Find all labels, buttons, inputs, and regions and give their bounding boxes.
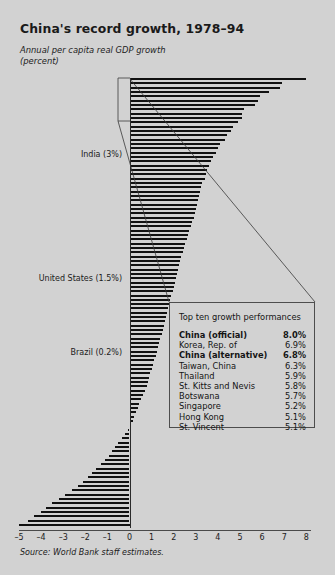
callout-row-name: China (official)	[179, 330, 247, 340]
reference-annotation: United States (1.5%)	[0, 274, 122, 283]
bar	[130, 204, 197, 206]
bar	[130, 295, 172, 297]
zero-axis-rule	[130, 78, 131, 528]
x-tick-label: –3	[55, 533, 71, 542]
bar	[130, 113, 243, 115]
bar	[130, 186, 202, 188]
bar	[130, 234, 189, 236]
bar	[130, 320, 165, 322]
bar	[88, 476, 130, 478]
bar	[65, 494, 129, 496]
bar	[130, 225, 192, 227]
bar	[130, 121, 238, 123]
bar	[101, 463, 130, 465]
bar	[130, 82, 282, 84]
bar	[130, 264, 180, 266]
callout-list: China (official)8.0%Korea, Rep. of6.9%Ch…	[179, 330, 306, 432]
bar	[130, 398, 141, 400]
x-tick-label: –4	[33, 533, 49, 542]
bar	[130, 78, 307, 80]
callout-row-value: 6.3%	[285, 361, 306, 371]
reference-annotation: Brazil (0.2%)	[0, 348, 122, 357]
callout-row-name: Botswana	[179, 391, 220, 401]
bar	[130, 342, 160, 344]
x-tick-label: –1	[99, 533, 115, 542]
callout-row: Hong Kong5.1%	[179, 412, 306, 422]
x-tick-label: 5	[232, 533, 248, 542]
bar	[130, 152, 216, 154]
callout-row-name: Hong Kong	[179, 412, 224, 422]
bar	[130, 217, 194, 219]
bar	[130, 243, 185, 245]
bar	[130, 351, 158, 353]
callout-heading: Top ten growth performances	[179, 312, 301, 322]
bar	[130, 269, 179, 271]
bar	[130, 230, 190, 232]
bar	[83, 481, 129, 483]
bar	[130, 173, 206, 175]
bar	[130, 212, 195, 214]
callout-row: Korea, Rep. of6.9%	[179, 340, 306, 350]
bar	[130, 290, 173, 292]
bar	[105, 459, 129, 461]
x-tick-label: 0	[122, 533, 138, 542]
bar	[130, 143, 221, 145]
bar	[130, 368, 152, 370]
bar	[130, 108, 245, 110]
bar	[130, 126, 234, 128]
callout-row-name: Korea, Rep. of	[179, 340, 237, 350]
callout-row: St. Vincent5.1%	[179, 422, 306, 432]
bar	[78, 485, 130, 487]
callout-row-value: 6.8%	[283, 350, 306, 360]
bar	[130, 381, 149, 383]
bar	[130, 333, 162, 335]
callout-row-value: 5.1%	[285, 422, 306, 432]
callout-row-name: Thailand	[179, 371, 215, 381]
bar	[112, 450, 130, 452]
bar	[130, 160, 212, 162]
bar	[130, 208, 196, 210]
callout-row-name: China (alternative)	[179, 350, 267, 360]
bar	[130, 182, 203, 184]
callout-row: China (official)8.0%	[179, 330, 306, 340]
bar	[46, 507, 130, 509]
bar	[72, 489, 129, 491]
bar	[130, 238, 187, 240]
x-tick-label: –2	[77, 533, 93, 542]
callout-row: Singapore5.2%	[179, 401, 306, 411]
reference-annotation: India (3%)	[0, 150, 122, 159]
bar	[130, 346, 159, 348]
callout-row: St. Kitts and Nevis5.8%	[179, 381, 306, 391]
bar	[130, 260, 181, 262]
callout-row: Taiwan, China6.3%	[179, 361, 306, 371]
bar	[130, 134, 227, 136]
bar	[130, 199, 199, 201]
callout-row-value: 5.9%	[285, 371, 306, 381]
callout-row-value: 6.9%	[285, 340, 306, 350]
bar	[130, 165, 210, 167]
x-tick-label: 4	[210, 533, 226, 542]
bar	[130, 377, 150, 379]
bar	[130, 251, 183, 253]
bar	[130, 372, 151, 374]
bar	[130, 394, 143, 396]
bar	[130, 191, 201, 193]
bar	[130, 407, 139, 409]
bar	[52, 502, 129, 504]
callout-row-name: Taiwan, China	[179, 361, 236, 371]
bar	[59, 498, 130, 500]
bar	[130, 139, 225, 141]
bar	[130, 299, 171, 301]
bar	[115, 446, 129, 448]
bar	[130, 338, 161, 340]
bar	[130, 385, 148, 387]
bar	[130, 312, 168, 314]
bar	[130, 221, 193, 223]
bar	[130, 100, 258, 102]
x-axis-line	[19, 530, 311, 531]
x-tick-label: –5	[11, 533, 27, 542]
bar	[130, 282, 175, 284]
bar	[96, 468, 129, 470]
x-tick-label: 8	[298, 533, 314, 542]
bar	[130, 303, 170, 305]
